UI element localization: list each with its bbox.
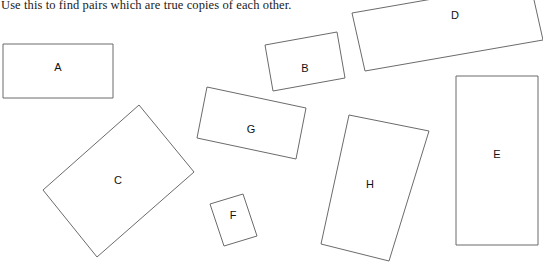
shape-label-h: H	[366, 178, 374, 190]
worksheet-page: Use this to find pairs which are true co…	[0, 0, 543, 269]
shape-f: F	[210, 194, 257, 246]
shape-label-b: B	[301, 62, 308, 74]
shape-label-c: C	[114, 174, 122, 186]
shape-label-g: G	[247, 123, 256, 135]
shape-b: B	[265, 32, 345, 91]
shape-outline-e	[456, 76, 538, 245]
shape-outline-d	[352, 0, 543, 71]
shape-group: ABDCGFHE	[3, 0, 543, 261]
shape-canvas: ABDCGFHE	[0, 0, 543, 269]
shape-c: C	[43, 105, 194, 257]
shape-h: H	[321, 115, 429, 261]
shape-label-a: A	[54, 61, 62, 73]
shape-g: G	[197, 87, 306, 159]
shape-d: D	[352, 0, 543, 71]
shape-e: E	[456, 76, 538, 245]
shape-outline-h	[321, 115, 429, 261]
shape-label-f: F	[230, 209, 237, 221]
shape-label-d: D	[451, 9, 459, 21]
shape-label-e: E	[493, 148, 500, 160]
shape-a: A	[3, 44, 113, 98]
